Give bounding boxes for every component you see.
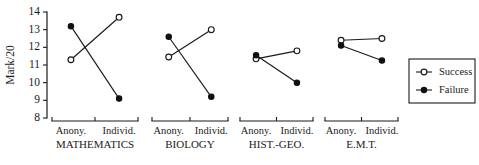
data-point-failure xyxy=(253,53,258,58)
panel-title: MATHEMATICS xyxy=(56,138,134,150)
series-line-failure xyxy=(71,26,119,98)
y-axis-tick-label: 13 xyxy=(29,23,41,35)
y-axis-tick-label: 14 xyxy=(29,5,41,17)
series-line-success xyxy=(341,39,382,41)
series-line-success xyxy=(169,30,212,57)
data-point-success xyxy=(338,37,344,43)
chart-figure: 891011121314Mark/20Anony.Individ.MATHEMA… xyxy=(0,0,479,165)
series-line-failure xyxy=(256,55,297,82)
panel-mathematics: Anony.Individ.MATHEMATICS xyxy=(52,14,138,150)
x-axis-condition-label: Individ. xyxy=(280,125,313,136)
x-axis-condition-label: Individ. xyxy=(103,125,136,136)
x-axis-condition-label: Individ. xyxy=(195,125,228,136)
data-point-failure xyxy=(116,96,121,101)
legend-marker-success xyxy=(421,69,427,75)
data-point-failure xyxy=(294,80,299,85)
x-axis-condition-label: Anony. xyxy=(56,125,87,136)
y-axis-title: Mark/20 xyxy=(4,45,16,85)
series-line-success xyxy=(256,51,297,59)
series-line-success xyxy=(71,17,119,59)
panel-title: E.M.T. xyxy=(346,138,377,150)
panel-title: HIST.-GEO. xyxy=(249,138,305,150)
panel-title: BIOLOGY xyxy=(165,138,215,150)
chart-canvas: 891011121314Mark/20Anony.Individ.MATHEMA… xyxy=(0,0,479,165)
legend-marker-failure xyxy=(421,87,426,92)
x-axis-condition-label: Anony. xyxy=(241,125,272,136)
y-axis-tick-label: 10 xyxy=(29,76,41,88)
y-axis-tick-label: 8 xyxy=(34,111,40,123)
data-point-success xyxy=(379,36,385,42)
legend: SuccessFailure xyxy=(409,59,475,103)
panel-biology: Anony.Individ.BIOLOGY xyxy=(152,27,228,150)
data-point-success xyxy=(166,54,172,60)
y-axis-tick-label: 12 xyxy=(29,40,41,52)
legend-label-success: Success xyxy=(439,66,472,77)
y-axis-tick-label: 11 xyxy=(29,58,40,70)
data-point-failure xyxy=(379,58,384,63)
data-point-success xyxy=(208,27,214,33)
x-axis-condition-label: Anony. xyxy=(153,125,184,136)
data-point-success xyxy=(294,48,300,54)
x-axis-condition-label: Anony. xyxy=(326,125,357,136)
data-point-failure xyxy=(68,23,73,28)
legend-label-failure: Failure xyxy=(439,84,469,95)
data-point-success xyxy=(68,57,74,63)
series-line-failure xyxy=(341,46,382,61)
x-axis-condition-label: Individ. xyxy=(365,125,398,136)
data-point-success xyxy=(116,14,122,20)
data-point-failure xyxy=(209,94,214,99)
panel-hist-geo: Anony.Individ.HIST.-GEO. xyxy=(240,48,313,150)
data-point-failure xyxy=(166,34,171,39)
series-line-failure xyxy=(169,37,212,97)
y-axis-tick-label: 9 xyxy=(34,93,40,105)
data-point-failure xyxy=(338,43,343,48)
panel-e-m-t: Anony.Individ.E.M.T. xyxy=(325,36,398,150)
